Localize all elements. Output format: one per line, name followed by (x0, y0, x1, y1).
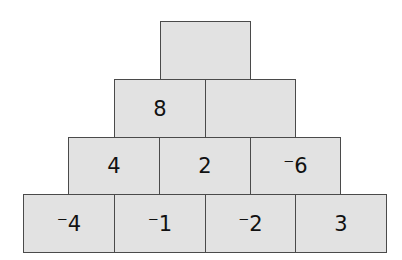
pyramid-cell-r4-2: ⁻1 (114, 194, 206, 253)
pyramid-cell-r3-2: 2 (159, 137, 251, 195)
pyramid-cell-r4-3: ⁻2 (205, 194, 296, 253)
pyramid-cell-r4-1: ⁻4 (23, 194, 115, 253)
pyramid-cell-r4-4: 3 (295, 194, 387, 253)
pyramid-cell-top (160, 21, 251, 80)
pyramid-cell-r2-1: 8 (114, 79, 206, 138)
pyramid-cell-r3-3: ⁻6 (250, 137, 341, 195)
pyramid-cell-r3-1: 4 (68, 137, 160, 195)
pyramid-cell-r2-2 (205, 79, 296, 138)
